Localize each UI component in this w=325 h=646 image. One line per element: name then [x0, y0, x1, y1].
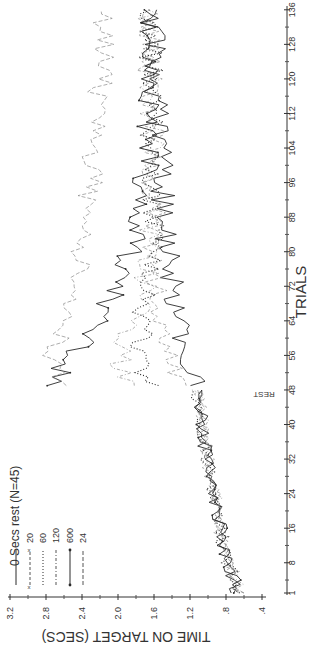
time-tick-label: .4 [257, 607, 267, 615]
series-600-marker [198, 398, 200, 400]
rotated-line-chart: 181624324048566472808896104112120128136 … [0, 0, 325, 646]
series-600-marker [132, 177, 134, 179]
series-600-marker [214, 501, 216, 503]
trial-tick-label: 48 [287, 385, 297, 395]
series-600-marker [240, 579, 242, 581]
legend-title: 0 Secs rest (N=45) [8, 466, 22, 566]
series-600-marker [211, 514, 213, 516]
series-600-marker [214, 488, 216, 490]
series-600-marker [88, 346, 90, 348]
series-600-marker [145, 203, 147, 205]
trial-tick-label: 32 [287, 454, 297, 464]
series-600-marker [143, 9, 145, 11]
series-600-marker [226, 527, 228, 529]
trial-tick-label: 104 [287, 141, 297, 156]
legend-marker [69, 584, 72, 587]
legend-label-20: 20 [25, 533, 35, 543]
series-600-marker [46, 385, 48, 387]
time-tick-label: .8 [221, 607, 231, 615]
series-600-marker [125, 268, 127, 270]
series-600-marker [210, 450, 212, 452]
legend-x-marker: x [28, 584, 31, 590]
trial-tick-label: 8 [287, 560, 297, 565]
series-600-marker [142, 190, 144, 192]
time-ticks: .4.81.21.62.02.42.83.2 [5, 594, 267, 620]
series-600-marker [115, 281, 117, 283]
legend-marker [69, 549, 72, 552]
series-24-line [194, 390, 244, 593]
series-20-line [196, 390, 244, 593]
trial-tick-label: 112 [287, 106, 297, 120]
series-600-marker [62, 359, 64, 361]
trial-tick-label: 16 [287, 523, 297, 533]
series-600-marker [130, 242, 132, 244]
series-600-marker [154, 61, 156, 63]
series-600-marker [197, 437, 199, 439]
trial-tick-label: 24 [287, 489, 297, 499]
time-tick-label: 2.0 [113, 607, 123, 620]
series-600-marker [138, 100, 140, 102]
trial-tick-label: 40 [287, 420, 297, 430]
time-tick-label: 1.2 [185, 607, 195, 620]
y-axis-title: TIME ON TARGET (SECS) [42, 629, 211, 645]
trial-tick-label: 96 [287, 178, 297, 188]
trial-tick-label: 120 [287, 71, 297, 86]
time-tick-label: 2.4 [77, 607, 87, 620]
trial-tick-label: 80 [287, 247, 297, 257]
series-120-line [109, 10, 164, 386]
series-600-marker [140, 22, 142, 24]
series-600-marker [136, 126, 138, 128]
series-lines [43, 9, 244, 594]
series-600-marker [195, 424, 197, 426]
series-600-marker [222, 540, 224, 542]
series-600-marker [223, 566, 225, 568]
series-600-marker [152, 87, 154, 89]
legend-x-marker: x [28, 547, 31, 553]
trial-tick-label: 1 [287, 590, 297, 595]
series-24-line [43, 10, 114, 386]
series-600-marker [129, 229, 131, 231]
series-600-marker [146, 113, 148, 115]
legend-label-120: 120 [51, 528, 61, 543]
trial-tick-label: 88 [287, 212, 297, 222]
trial-tick-label: 56 [287, 350, 297, 360]
series-600-marker [211, 463, 213, 465]
series-600-marker [233, 592, 235, 594]
series-600-marker [107, 320, 109, 322]
legend-label-24: 24 [78, 533, 88, 543]
time-tick-label: 3.2 [5, 607, 15, 620]
series-600-marker [145, 139, 147, 141]
time-tick-label: 1.6 [149, 607, 159, 620]
legend: 0 Secs rest (N=45)xx206012060024 [8, 466, 88, 590]
trial-tick-label: 128 [287, 37, 297, 52]
series-600-marker [146, 35, 148, 37]
series-600-marker [116, 255, 118, 257]
series-600-marker [123, 294, 125, 296]
legend-label-600: 600 [65, 528, 75, 543]
series-600-marker [158, 164, 160, 166]
series-600-marker [129, 216, 131, 218]
legend-label-60: 60 [38, 533, 48, 543]
series-600-line [47, 10, 159, 386]
series-600-marker [157, 151, 159, 153]
series-600-marker [82, 333, 84, 335]
series-600-marker [219, 553, 221, 555]
series-600-marker [69, 372, 71, 374]
trial-tick-label: 136 [287, 2, 297, 17]
time-tick-label: 2.8 [41, 607, 51, 620]
series-600-marker [107, 307, 109, 309]
rest-label: REST [253, 390, 274, 399]
series-600-marker [147, 48, 149, 50]
series-600-marker [153, 74, 155, 76]
x-axis-title: TRIALS [292, 266, 309, 319]
